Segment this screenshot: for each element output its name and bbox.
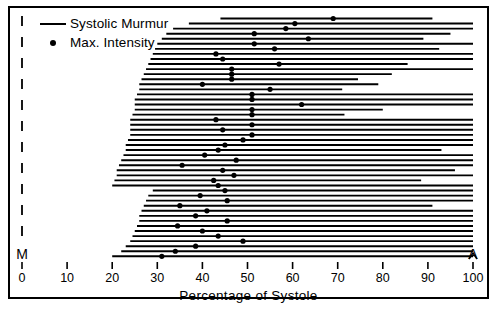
x-tick-label: 10 (60, 271, 74, 285)
x-tick-label: 80 (376, 271, 390, 285)
axis-marker-mitral: M (16, 246, 28, 262)
x-tick-label: 60 (286, 271, 300, 285)
line-swatch-icon (36, 23, 70, 25)
x-tick-label: 90 (421, 271, 435, 285)
x-tick-label: 20 (105, 271, 119, 285)
x-tick-label: 50 (241, 271, 255, 285)
x-tick-label: 30 (150, 271, 164, 285)
legend-label-systolic-murmur: Systolic Murmur (70, 17, 168, 31)
x-tick-label: 0 (19, 271, 26, 285)
legend-item-systolic-murmur: Systolic Murmur (36, 14, 168, 33)
legend: Systolic Murmur Max. Intensity (36, 14, 168, 52)
x-tick-label: 70 (331, 271, 345, 285)
legend-item-max-intensity: Max. Intensity (36, 33, 168, 52)
x-axis-title: Percentage of Systole (0, 288, 497, 303)
x-tick-label: 100 (463, 271, 484, 285)
dot-swatch-icon (36, 40, 70, 46)
x-tick-label: 40 (195, 271, 209, 285)
legend-label-max-intensity: Max. Intensity (70, 36, 155, 50)
axis-marker-aortic: A (468, 246, 477, 262)
figure-root: Systolic Murmur Max. Intensity M A 01020… (0, 0, 497, 313)
